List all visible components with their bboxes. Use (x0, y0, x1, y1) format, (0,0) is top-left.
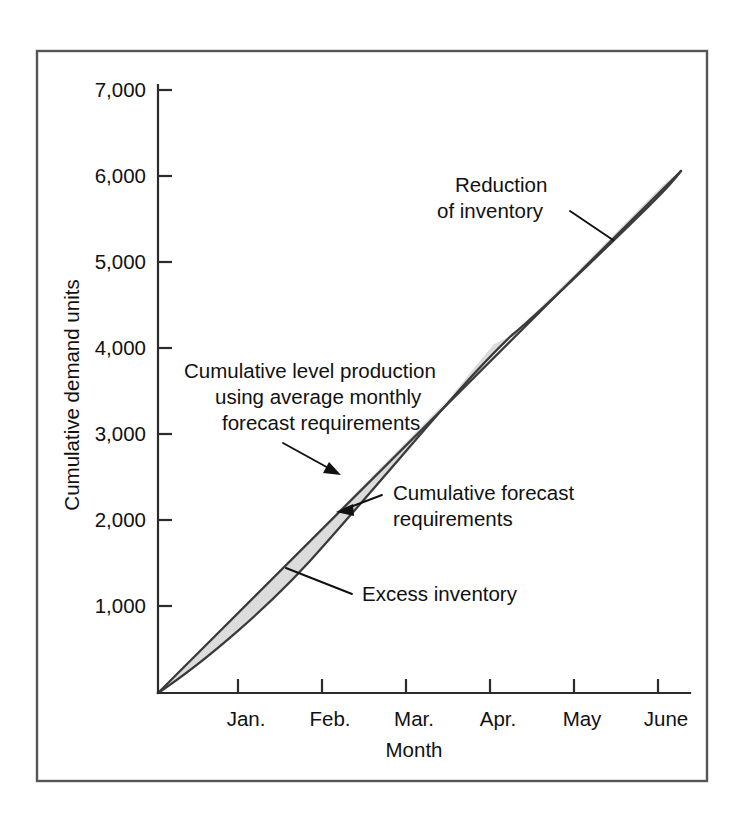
x-tick-label-apr: Apr. (480, 707, 516, 730)
y-tick-label-5000: 5,000 (95, 250, 146, 273)
y-tick-label-2000: 2,000 (95, 508, 146, 531)
annotation-excess-inventory-label: Excess inventory (362, 582, 518, 605)
y-tick-label-1000: 1,000 (95, 594, 146, 617)
annotation-cumulative-level-production-line-1: Cumulative level production (184, 359, 436, 382)
annotation-reduction-of-inventory-line-1: Reduction (455, 173, 547, 196)
x-tick-label-feb: Feb. (309, 707, 350, 730)
cumulative-demand-chart: 7,000 6,000 5,000 4,000 3,000 2,000 1,00… (0, 0, 747, 816)
annotation-cumulative-level-production-line-2: using average monthly (215, 385, 422, 408)
y-tick-label-3000: 3,000 (95, 422, 146, 445)
annotation-cumulative-forecast-requirements-line-1: Cumulative forecast (393, 481, 574, 504)
x-axis-title: Month (386, 738, 443, 761)
x-tick-label-mar: Mar. (394, 707, 434, 730)
y-tick-label-7000: 7,000 (95, 78, 146, 101)
x-tick-label-may: May (563, 707, 602, 730)
annotation-cumulative-forecast-requirements-line-2: requirements (393, 507, 513, 530)
y-axis-title: Cumulative demand units (60, 279, 83, 510)
x-tick-label-june: June (644, 707, 688, 730)
x-tick-label-jan: Jan. (227, 707, 266, 730)
y-tick-label-4000: 4,000 (95, 336, 146, 359)
annotation-cumulative-level-production-line-3: forecast requirements (222, 411, 420, 434)
annotation-reduction-of-inventory-line-2: of inventory (437, 199, 544, 222)
y-tick-label-6000: 6,000 (95, 164, 146, 187)
figure-root: 7,000 6,000 5,000 4,000 3,000 2,000 1,00… (0, 0, 747, 816)
